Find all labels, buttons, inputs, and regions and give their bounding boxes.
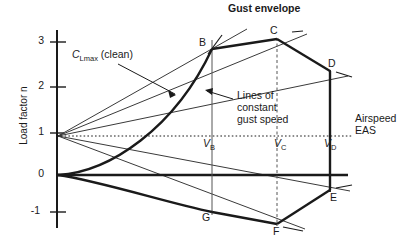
v-c-subscript: C — [281, 143, 286, 152]
envelope-segment-C-D — [277, 39, 330, 71]
clmax-leader-line — [118, 64, 175, 94]
envelope-segment-B-C — [212, 39, 277, 49]
clmax-max-subscript: max — [84, 54, 98, 63]
gust-note-line-2: constant — [237, 102, 288, 114]
gust-line-pos-3 — [58, 76, 348, 136]
v-c-label: VC — [274, 138, 286, 152]
point-label-G: G — [202, 212, 210, 224]
clmax-negative-stall-curve — [58, 175, 212, 212]
gust-note-leader-arrowhead — [205, 88, 213, 95]
airspeed-axis-label: Airspeed EAS — [355, 113, 396, 137]
point-label-B: B — [199, 37, 206, 49]
constant-gust-speed-annotation: Lines of constant gust speed — [237, 90, 288, 125]
clmax-clean-suffix: (clean) — [101, 48, 133, 60]
v-d-symbol: V — [324, 137, 331, 149]
y-tick-label-0: 0 — [28, 168, 44, 180]
v-d-subscript: D — [331, 143, 336, 152]
v-b-symbol: V — [203, 137, 210, 149]
clmax-positive-stall-curve — [58, 49, 212, 175]
point-label-F: F — [273, 226, 279, 238]
gust-envelope-polygon — [212, 39, 330, 224]
y-tick-label-minus-1: -1 — [24, 205, 40, 217]
point-label-E: E — [330, 192, 337, 204]
tick-through-E — [336, 185, 352, 188]
clmax-c-symbol: C — [72, 48, 80, 60]
airspeed-label-line-1: Airspeed — [355, 113, 396, 125]
chart-title: Gust envelope — [228, 3, 300, 15]
gust-note-line-3: gust speed — [237, 114, 288, 126]
v-b-subscript: B — [210, 143, 215, 152]
point-label-D: D — [328, 58, 336, 70]
y-tick-label-1: 1 — [28, 126, 44, 138]
v-b-label: VB — [203, 138, 215, 152]
envelope-segment-F-G — [212, 212, 277, 224]
v-d-label: VD — [324, 138, 336, 152]
gust-envelope-figure: Gust envelope Load factor n 3 2 1 0 -1 C… — [0, 0, 415, 241]
tick-through-D — [336, 72, 352, 77]
y-tick-label-3: 3 — [28, 35, 44, 47]
chart-canvas — [0, 0, 415, 241]
point-label-C: C — [270, 25, 278, 37]
tick-through-C — [292, 31, 303, 32]
y-tick-label-2: 2 — [28, 80, 44, 92]
gust-note-line-1: Lines of — [237, 90, 288, 102]
v-c-symbol: V — [274, 137, 281, 149]
airspeed-label-line-2: EAS — [355, 125, 396, 137]
envelope-segment-E-F — [277, 190, 330, 224]
clmax-clean-annotation: CLmax (clean) — [72, 49, 133, 63]
